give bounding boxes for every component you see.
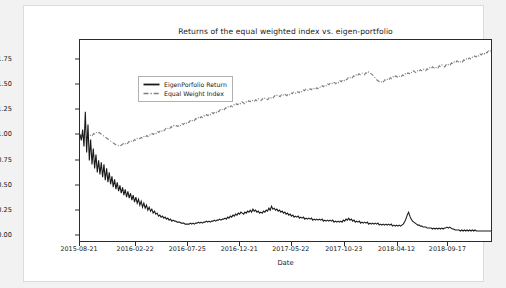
y-axis-tick-mark <box>75 84 79 85</box>
plot-area: EigenPorfolio Return Equal Weight Index <box>79 39 492 242</box>
x-axis-tick-mark <box>397 242 398 246</box>
x-axis-tick-mark <box>291 242 292 246</box>
y-axis-tick-mark <box>75 134 79 135</box>
figure-card: Returns of the equal weighted index vs. … <box>23 5 484 282</box>
y-axis-tick-mark <box>75 209 79 210</box>
y-axis-tick-mark <box>75 109 79 110</box>
legend-label-eigen-portfolio: EigenPorfolio Return <box>164 80 227 89</box>
x-axis-tick-mark <box>79 242 80 246</box>
series-line-eigen-portfolio <box>80 112 491 231</box>
x-axis-label: Date <box>79 259 492 267</box>
legend-item-equal-weight: Equal Weight Index <box>143 89 227 98</box>
y-axis-tick-label: 0.25 <box>0 206 12 214</box>
y-axis-tick-label: 0.75 <box>0 156 12 164</box>
chart-canvas <box>80 40 491 241</box>
y-axis-tick-label: 1.50 <box>0 80 12 88</box>
y-axis-tick-label: 0.50 <box>0 181 12 189</box>
y-axis-tick-mark <box>75 184 79 185</box>
x-axis-tick-label: 2016-07-25 <box>169 245 206 253</box>
x-axis-tick-label: 2015-08-21 <box>60 245 97 253</box>
chart-legend: EigenPorfolio Return Equal Weight Index <box>138 76 233 102</box>
x-axis-tick-mark <box>187 242 188 246</box>
x-axis-tick-label: 2018-09-17 <box>429 245 466 253</box>
x-axis-tick-mark <box>447 242 448 246</box>
legend-swatch-dashdot-line <box>143 89 160 98</box>
legend-label-equal-weight: Equal Weight Index <box>164 89 224 98</box>
x-axis-tick-label: 2017-05-22 <box>272 245 309 253</box>
y-axis-tick-mark <box>75 59 79 60</box>
y-axis-tick-label: 1.00 <box>0 130 12 138</box>
x-axis-tick-label: 2016-12-21 <box>221 245 258 253</box>
plot-inner <box>80 40 491 241</box>
x-axis-tick-label: 2017-10-23 <box>325 245 362 253</box>
x-axis-tick-label: 2016-02-22 <box>117 245 154 253</box>
screenshot-root: Returns of the equal weighted index vs. … <box>0 0 506 288</box>
y-axis-tick-mark <box>75 159 79 160</box>
x-axis-tick-mark <box>135 242 136 246</box>
y-axis-tick-label: 1.75 <box>0 55 12 63</box>
x-axis-tick-mark <box>344 242 345 246</box>
x-axis-tick-label: 2018-04-12 <box>378 245 415 253</box>
legend-item-eigen-portfolio: EigenPorfolio Return <box>143 80 227 89</box>
y-axis-tick-label: 1.25 <box>0 105 12 113</box>
x-axis-tick-mark <box>239 242 240 246</box>
chart-title: Returns of the equal weighted index vs. … <box>79 27 492 36</box>
y-axis-tick-mark <box>75 234 79 235</box>
y-axis-tick-label: 0.00 <box>0 231 12 239</box>
legend-swatch-solid-line <box>143 80 160 89</box>
